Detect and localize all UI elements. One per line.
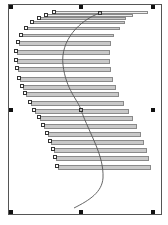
drawing-canvas[interactable]: [0, 0, 168, 225]
curve-control-point[interactable]: [79, 108, 83, 112]
curve-control-point[interactable]: [98, 11, 102, 15]
guide-curve[interactable]: [0, 0, 168, 225]
